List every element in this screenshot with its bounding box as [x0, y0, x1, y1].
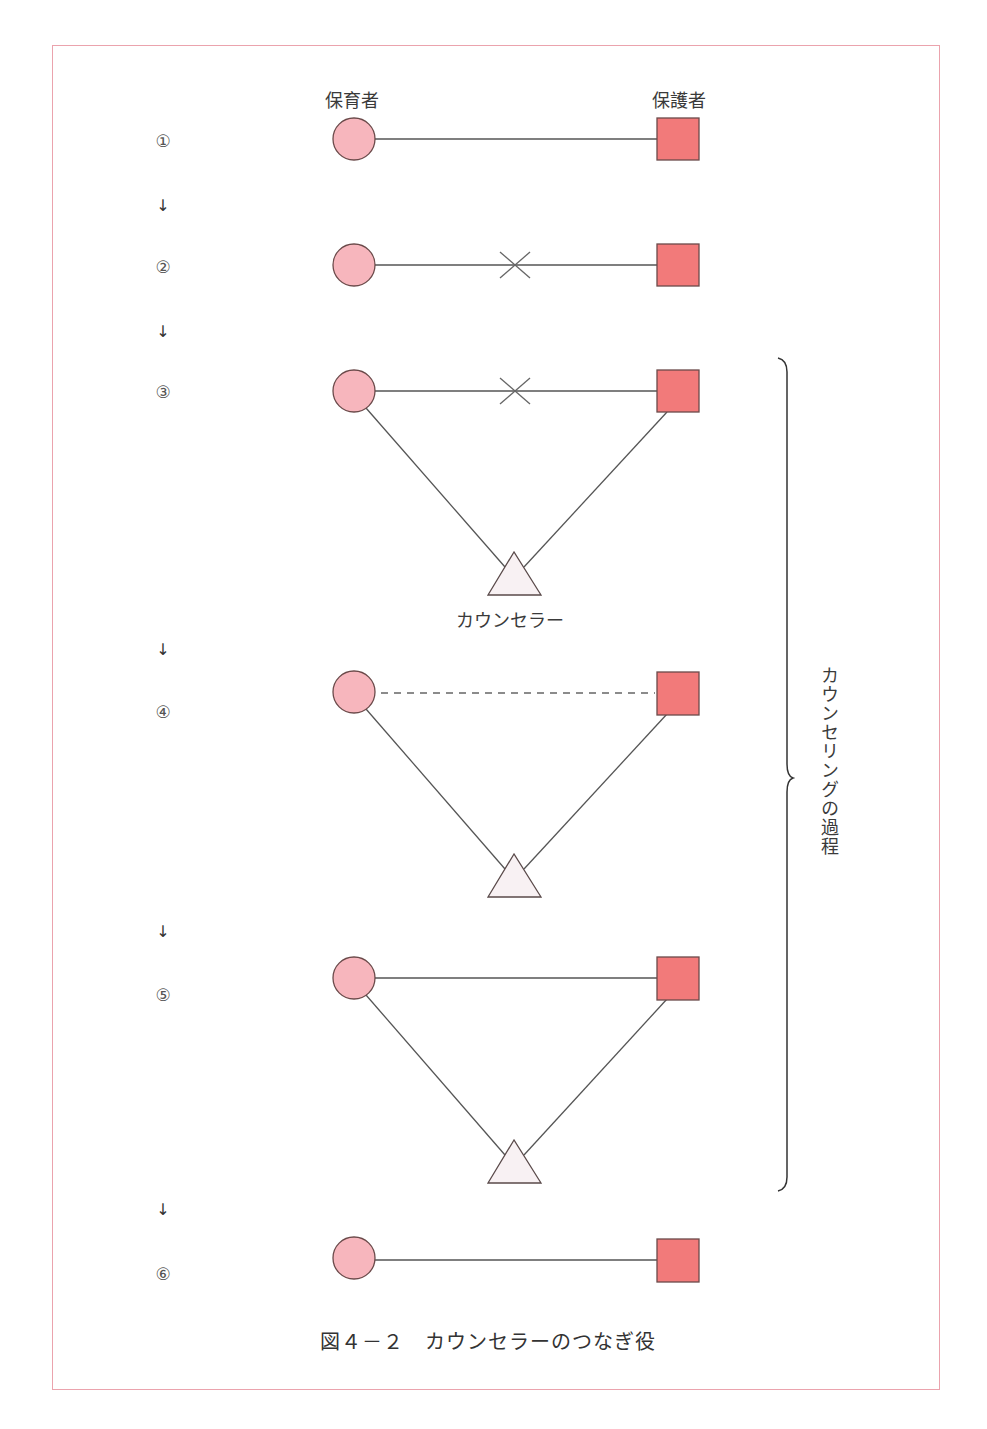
caregiver-circle-icon: [333, 118, 375, 160]
step-4-diagram: [333, 671, 699, 897]
guardian-square-icon: [657, 118, 699, 160]
down-arrow-icon: ↓: [153, 922, 173, 941]
step-number-4: ④: [151, 702, 175, 722]
down-arrow-icon: ↓: [153, 322, 173, 341]
step-number-2: ②: [151, 257, 175, 277]
brace-icon: [778, 358, 793, 1191]
guardian-square-icon: [657, 957, 699, 1000]
down-arrow-icon: ↓: [153, 196, 173, 215]
down-arrow-icon: ↓: [153, 640, 173, 659]
guardian-square-icon: [657, 1239, 699, 1282]
caregiver-counselor-line: [366, 995, 505, 1155]
caregiver-circle-icon: [333, 244, 375, 286]
counselor-triangle-icon: [488, 1140, 541, 1183]
caregiver-circle-icon: [333, 957, 375, 999]
counseling-process-label: カウンセリングの過程: [815, 666, 841, 856]
caregiver-circle-icon: [333, 1237, 375, 1279]
down-arrow-icon: ↓: [153, 1200, 173, 1219]
caregiver-circle-icon: [333, 671, 375, 713]
step-6-diagram: [333, 1237, 699, 1282]
step-number-3: ③: [151, 382, 175, 402]
caregiver-counselor-line: [366, 709, 505, 869]
counselor-triangle-icon: [488, 854, 541, 897]
guardian-counselor-line: [524, 412, 667, 567]
figure-caption: 図４－２ カウンセラーのつなぎ役: [320, 1326, 656, 1355]
caregiver-label: 保育者: [325, 86, 379, 112]
guardian-square-icon: [657, 370, 699, 412]
step-number-6: ⑥: [151, 1264, 175, 1284]
guardian-square-icon: [657, 244, 699, 286]
caregiver-circle-icon: [333, 370, 375, 412]
counselor-label: カウンセラー: [456, 606, 564, 632]
caregiver-counselor-line: [366, 408, 505, 567]
guardian-counselor-line: [524, 999, 667, 1155]
step-1-diagram: [333, 118, 699, 160]
step-2-diagram: [333, 244, 699, 286]
step-3-diagram: [333, 370, 699, 595]
guardian-label: 保護者: [652, 86, 706, 112]
step-number-1: ①: [151, 131, 175, 151]
step-number-5: ⑤: [151, 985, 175, 1005]
step-5-diagram: [333, 957, 699, 1183]
guardian-square-icon: [657, 672, 699, 715]
counselor-triangle-icon: [488, 552, 541, 595]
guardian-counselor-line: [524, 714, 667, 869]
